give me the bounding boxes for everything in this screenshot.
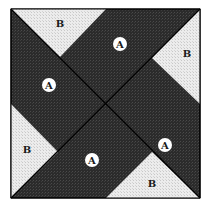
svg-text:A: A — [44, 80, 53, 91]
label-a-right: A — [158, 138, 172, 152]
label-b-left: B — [23, 144, 31, 155]
svg-text:A: A — [87, 155, 96, 166]
label-b-bottom: B — [148, 178, 156, 189]
svg-text:A: A — [115, 39, 124, 50]
label-a-top: A — [113, 37, 127, 51]
svg-text:A: A — [160, 140, 169, 151]
quilt-block-diagram: A A A A B B B B — [0, 0, 214, 214]
label-a-bottom: A — [85, 153, 99, 167]
label-a-left: A — [42, 78, 56, 92]
label-b-top: B — [56, 18, 64, 29]
label-b-right: B — [183, 48, 191, 59]
